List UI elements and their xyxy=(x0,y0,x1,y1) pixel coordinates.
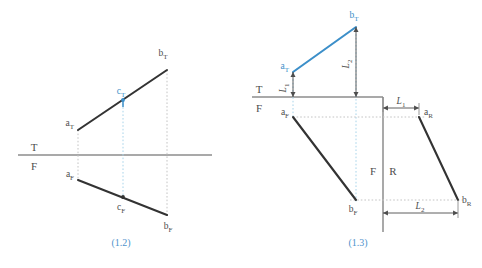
point-label-af: aF xyxy=(66,169,74,182)
segment-ar-br xyxy=(419,117,458,200)
segment-af-bf-figure2 xyxy=(293,117,356,200)
caption-figure1: (1.2) xyxy=(111,237,130,249)
fold-label-t-figure2: T xyxy=(256,83,263,95)
dimension-label-l2-horizontal: L2 xyxy=(415,201,425,214)
point-label-bt-figure2: bT xyxy=(349,10,359,23)
figure-1-3-group: L1 L2 L1 L2 T F F R aT bT aF bF aR xyxy=(252,10,472,249)
point-label-cf: cF xyxy=(117,202,125,215)
dimension-label-l2-vertical: L2 xyxy=(341,59,354,69)
dimension-label-l1-vertical: L1 xyxy=(278,83,291,93)
dimension-label-l1-horizontal: L1 xyxy=(396,96,406,109)
fold-label-r-vertical: R xyxy=(389,165,397,177)
figure-1-2-group: T F aT bT cT aF bF cF (1.2) xyxy=(18,48,212,249)
point-label-bf-figure2: bF xyxy=(349,204,358,217)
point-label-bt: bT xyxy=(158,48,168,61)
fold-label-t-figure1: T xyxy=(31,141,38,153)
fold-label-f-figure2: F xyxy=(256,102,262,114)
caption-figure2: (1.3) xyxy=(348,237,367,249)
point-label-ar: aR xyxy=(424,107,433,120)
descriptive-geometry-diagram: T F aT bT cT aF bF cF (1.2) xyxy=(0,0,482,268)
point-marker-cf xyxy=(121,195,125,199)
point-label-at-figure2: aT xyxy=(281,61,290,74)
point-label-ct: cT xyxy=(117,86,126,99)
fold-label-f-figure1: F xyxy=(31,160,37,172)
point-label-bf: bF xyxy=(164,221,173,234)
point-label-at: aT xyxy=(66,118,75,131)
fold-label-f-vertical: F xyxy=(370,165,376,177)
diagram-canvas: T F aT bT cT aF bF cF (1.2) xyxy=(0,0,482,268)
point-label-af-figure2: aF xyxy=(281,107,289,120)
point-label-br: bR xyxy=(462,195,472,208)
